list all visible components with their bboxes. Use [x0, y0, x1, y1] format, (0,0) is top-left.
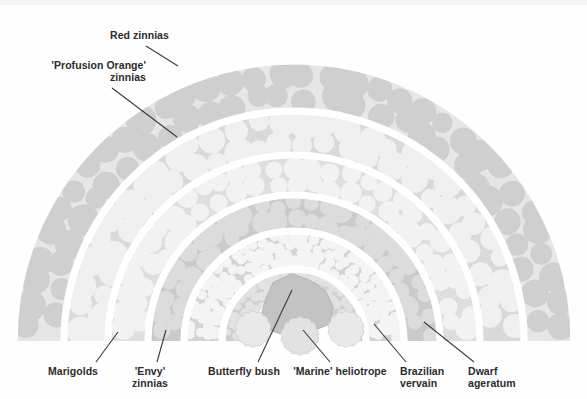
- label-marigolds: Marigolds: [42, 366, 104, 378]
- label-line: zinnias: [122, 378, 178, 390]
- label-red-zinnias: Red zinnias: [110, 30, 169, 42]
- label-brazilian-vervain: Brazilianvervain: [400, 366, 460, 389]
- label-line: Marigolds: [42, 366, 104, 378]
- heliotrope-clump-left: [235, 311, 270, 347]
- label-envy-zinnias: 'Envy'zinnias: [122, 366, 178, 389]
- label-dwarf-ageratum: Dwarfageratum: [468, 366, 536, 389]
- label-line: 'Envy': [122, 366, 178, 378]
- label-line: vervain: [400, 378, 460, 390]
- label-marine-heliotrope: 'Marine' heliotrope: [290, 366, 390, 378]
- label-line: Red zinnias: [110, 30, 169, 42]
- label-line: zinnias: [22, 72, 146, 84]
- heliotrope-clump-right: [328, 311, 363, 347]
- label-line: Butterfly bush: [203, 366, 285, 378]
- leader-line-red-zinnias: [146, 46, 178, 66]
- label-line: 'Profusion Orange': [22, 60, 146, 72]
- label-profusion-orange-zinnias: 'Profusion Orange'zinnias: [22, 60, 146, 83]
- label-line: Dwarf: [468, 366, 536, 378]
- label-butterfly-bush: Butterfly bush: [203, 366, 285, 378]
- label-line: 'Marine' heliotrope: [290, 366, 390, 378]
- label-line: Brazilian: [400, 366, 460, 378]
- label-line: ageratum: [468, 378, 536, 390]
- heliotrope-clump-center: [281, 317, 318, 355]
